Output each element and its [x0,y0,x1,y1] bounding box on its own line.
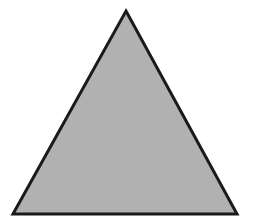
triangle-shape [13,11,237,214]
diagram-canvas [0,0,253,223]
triangle-diagram [0,0,253,223]
